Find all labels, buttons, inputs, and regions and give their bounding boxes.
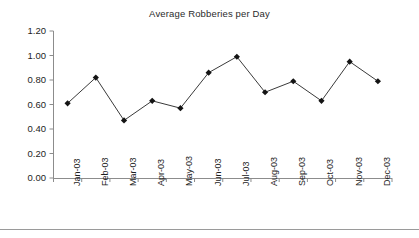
bottom-divider xyxy=(0,229,419,230)
data-point-marker xyxy=(121,117,127,123)
y-axis-tick-label: 0.00 xyxy=(16,172,46,183)
data-series-markers xyxy=(65,54,381,124)
x-axis-tick-label: Sep-03 xyxy=(297,157,307,186)
x-axis-tick-label: Nov-03 xyxy=(354,157,364,186)
y-axis-ticks xyxy=(50,31,54,178)
y-axis-tick-label: 0.40 xyxy=(16,123,46,134)
chart-plot-svg xyxy=(0,0,419,238)
x-axis-tick-label: Mar-03 xyxy=(128,157,138,186)
x-axis-tick-label: Oct-03 xyxy=(325,159,335,186)
y-axis-tick-label: 0.20 xyxy=(16,148,46,159)
x-axis-tick-label: Feb-03 xyxy=(100,157,110,186)
y-axis-tick-label: 0.60 xyxy=(16,99,46,110)
data-point-marker xyxy=(290,78,296,84)
chart-container: Average Robberies per Day 0.000.200.400.… xyxy=(0,0,419,238)
data-point-marker xyxy=(375,78,381,84)
x-axis-tick-label: Jul-03 xyxy=(241,161,251,186)
x-axis-tick-label: May-03 xyxy=(184,156,194,186)
x-axis-tick-label: Dec-03 xyxy=(382,157,392,186)
y-axis-tick-label: 0.80 xyxy=(16,74,46,85)
data-series-line xyxy=(68,57,378,121)
x-axis-tick-label: Jun-03 xyxy=(213,158,223,186)
data-point-marker xyxy=(149,98,155,104)
y-axis-tick-label: 1.00 xyxy=(16,50,46,61)
y-axis-tick-label: 1.20 xyxy=(16,25,46,36)
x-axis-tick-label: Jan-03 xyxy=(72,158,82,186)
x-axis-tick-label: Apr-03 xyxy=(156,159,166,186)
x-axis-tick-label: Aug-03 xyxy=(269,157,279,186)
